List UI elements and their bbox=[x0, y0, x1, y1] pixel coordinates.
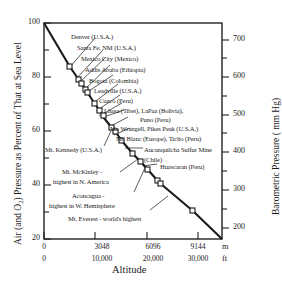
annotation-lhasa-line2: Puno (Peru) bbox=[140, 116, 171, 123]
y-axis-right-ticks bbox=[222, 40, 229, 228]
annotation-aucanquilcha-line1: Aucanquilcha Sulfur Mine bbox=[144, 146, 212, 153]
annotation-mt-blanc: Mt. Blanc (Europe), Ticlio (Peru) bbox=[116, 135, 201, 142]
annotation-aconcagua-line1: Aconcagua - bbox=[72, 192, 104, 199]
annotation-leadville: Leadville (U.S.A.) bbox=[94, 87, 141, 94]
annotation-mt-everest: Mt. Everest - world's highest bbox=[68, 215, 141, 222]
x-axis-ticks bbox=[44, 232, 198, 239]
annotation-mt-wrangell: Mt. Wrangell, Pikes Peak (U.S.A.) bbox=[110, 125, 198, 132]
altitude-pressure-chart: Air (and O2) Pressure as Percent of That… bbox=[0, 0, 282, 289]
annotation-aconcagua-line2: highest in W. Hemisphere bbox=[49, 202, 115, 209]
annotation-santa-fe: Santa Fe, NM (U.S.A.) bbox=[77, 44, 136, 51]
annotation-aucanquilcha-line2: (Chile) bbox=[144, 156, 162, 163]
annotation-lhasa-line1: Lhasa (Tibet), LaPaz (Bolivia), bbox=[104, 107, 183, 114]
annotation-denver: Denver (U.S.A.) bbox=[71, 33, 113, 40]
annotation-mt-kennedy: Mt. Kennedy (U.S.A.) bbox=[45, 146, 102, 153]
annotation-cuzco: Cuzco (Peru) bbox=[99, 97, 133, 104]
annotation-mckinley-line1: Mt. McKinley - bbox=[62, 168, 102, 175]
annotation-huascaran: Huascaran (Peru) bbox=[160, 163, 204, 170]
annotation-bogota: Bogota (Colombia) bbox=[89, 77, 138, 84]
plot-area bbox=[0, 0, 282, 289]
annotation-addis-ababa: Addis Ababa (Ethiopia) bbox=[85, 66, 145, 73]
annotation-mexico-city: Mexico City (Mexico) bbox=[81, 55, 138, 62]
annotation-mckinley-line2: highest in N. America bbox=[53, 178, 109, 185]
